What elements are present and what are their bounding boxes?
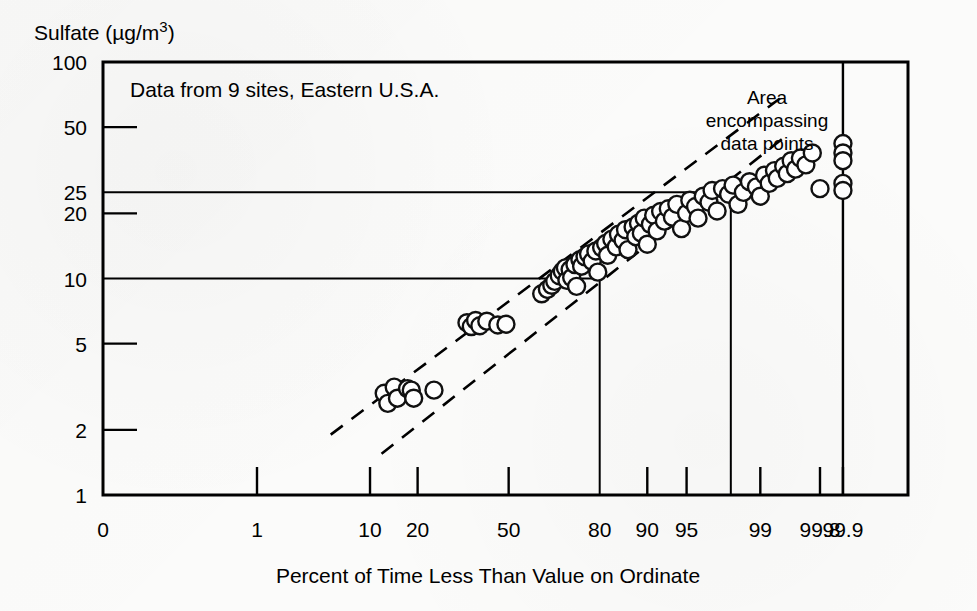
data-point — [405, 390, 422, 407]
x-tick-label-90: 90 — [636, 518, 659, 541]
x-tick-label-20: 20 — [406, 518, 429, 541]
x-tick-label-80: 80 — [588, 518, 611, 541]
y-tick-label-20: 20 — [64, 202, 87, 225]
data-point — [568, 278, 585, 295]
y-tick-label-100: 100 — [52, 51, 87, 74]
figure-container: 10050252010521 011020508090959999.899.9 … — [0, 0, 977, 611]
x-tick-label-99.9: 99.9 — [823, 518, 864, 541]
x-tick-label-50: 50 — [497, 518, 520, 541]
x-tick-labels-group: 011020508090959999.899.9 — [97, 518, 863, 541]
data-point — [834, 152, 851, 169]
y-tick-label-50: 50 — [64, 116, 87, 139]
y-axis-title: Sulfate (µg/m3) — [34, 18, 175, 44]
data-point — [812, 180, 829, 197]
y-tick-label-1: 1 — [75, 484, 87, 507]
data-point — [709, 203, 726, 220]
sulfate-probability-plot: 10050252010521 011020508090959999.899.9 … — [0, 0, 977, 611]
x-axis-title: Percent of Time Less Than Value on Ordin… — [276, 564, 700, 587]
envelope-annotation-line-3: data points — [721, 133, 814, 154]
data-point — [589, 264, 606, 281]
x-tick-label-0: 0 — [97, 518, 109, 541]
data-point — [425, 382, 442, 399]
data-point — [834, 182, 851, 199]
envelope-annotation-line-1: Area — [747, 87, 788, 108]
x-tick-label-99: 99 — [749, 518, 772, 541]
x-tick-label-1: 1 — [251, 518, 263, 541]
y-tick-labels-group: 10050252010521 — [52, 51, 87, 507]
x-tick-label-10: 10 — [358, 518, 381, 541]
y-tick-label-25: 25 — [64, 181, 87, 204]
y-tick-label-10: 10 — [64, 268, 87, 291]
envelope-annotation-line-2: encompassing — [706, 110, 829, 131]
x-tick-label-95: 95 — [675, 518, 698, 541]
data-point — [690, 210, 707, 227]
data-point — [497, 316, 514, 333]
y-tick-label-2: 2 — [75, 419, 87, 442]
y-tick-label-5: 5 — [75, 333, 87, 356]
plot-note: Data from 9 sites, Eastern U.S.A. — [130, 78, 439, 101]
